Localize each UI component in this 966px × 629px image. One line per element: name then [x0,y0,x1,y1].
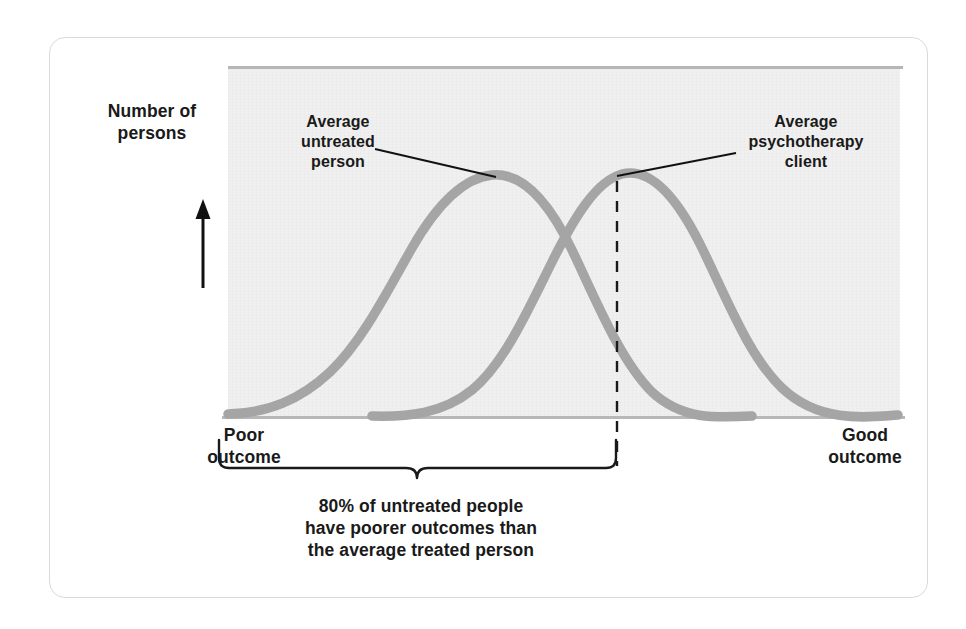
x-axis-label-poor-outcome: Poor outcome [184,424,304,468]
y-axis-label: Number of persons [72,100,232,144]
leader-line-psychotherapy [617,153,736,176]
figure-caption: 80% of untreated people have poorer outc… [225,495,617,561]
y-axis-arrow-icon [196,199,211,288]
curve-untreated-distribution [228,175,752,417]
annotation-average-untreated-person: Average untreated person [278,112,398,172]
x-axis-label-good-outcome: Good outcome [800,424,930,468]
figure-root: Number of persons Average untreated pers… [0,0,966,629]
annotation-average-psychotherapy-client: Average psychotherapy client [726,112,886,172]
curve-psychotherapy-distribution [372,173,898,417]
